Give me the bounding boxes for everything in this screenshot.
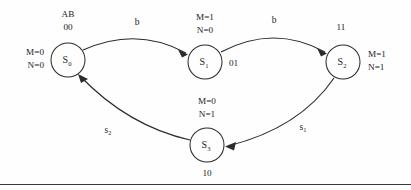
transition-s3-to-s0-path [80,76,190,140]
state-s3-code: 10 [202,168,212,178]
state-s2-output-m: M=1 [368,49,386,59]
state-s1-code: 01 [229,58,239,68]
transition-s0-to-s1-path [83,39,186,53]
state-s3-output-n: N=1 [199,109,216,119]
state-s1-output-m: M=1 [196,12,214,22]
state-s0-input-header: AB [62,9,75,19]
state-s0[interactable]: S0 AB 00 M=0 N=0 [26,9,85,77]
transition-s0-to-s1: b [83,17,188,58]
transition-s1-to-s2-path [221,38,325,52]
state-s2-output-n: N=1 [368,62,385,72]
transition-s0-to-s1-arrowhead [178,50,188,58]
state-diagram-page: b b s1 s2 S0 AB 00 M=0 N=0 [0,0,411,190]
transition-s3-to-s0: s2 [78,74,190,140]
transition-s2-to-s3-path [228,78,334,146]
transition-s1-to-s2-arrowhead [317,48,327,57]
transition-s1-to-s2: b [221,15,327,57]
state-diagram-canvas: b b s1 s2 S0 AB 00 M=0 N=0 [0,0,411,190]
transition-s0-to-s1-label: b [135,17,140,27]
transition-s2-to-s3-label: s1 [300,122,307,133]
state-s1-output-n: N=0 [197,25,214,35]
state-s0-code: 00 [63,22,73,32]
state-s3[interactable]: S3 M=0 N=1 10 [190,96,224,178]
bottom-divider [0,184,411,185]
state-s1[interactable]: S1 M=1 N=0 01 [188,12,239,79]
transition-s3-to-s0-label: s2 [105,125,112,136]
state-s2-code: 11 [337,22,346,32]
state-s3-output-m: M=0 [198,96,216,106]
transition-s1-to-s2-label: b [272,15,277,25]
transition-s2-to-s3: s1 [225,78,334,151]
state-s0-output-m: M=0 [26,47,44,57]
state-s2[interactable]: S2 11 M=1 N=1 [326,22,386,79]
transition-s3-to-s0-arrowhead [78,74,88,83]
state-s0-output-n: N=0 [28,60,45,70]
transition-s2-to-s3-arrowhead [225,142,236,151]
